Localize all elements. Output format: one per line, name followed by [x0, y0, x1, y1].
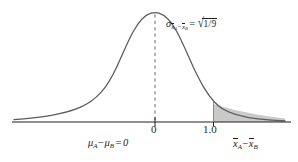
square-root-expression: √1/9: [197, 16, 217, 30]
statistics-figure: σxA−xB=√1/9 0 1.0 μA−μB=0 xA−xB: [0, 0, 298, 162]
radicand: 1/9: [202, 18, 217, 30]
axis-title-subscript-b: B: [254, 143, 258, 150]
radicand-denominator: 9: [211, 19, 216, 29]
mu-caption-value: 0: [123, 137, 128, 148]
sigma-formula-annotation: σxA−xB=√1/9: [166, 16, 217, 32]
radical-sign: √: [198, 16, 204, 30]
axis-title-minus: −: [242, 138, 249, 149]
x-axis-title: xA−xB: [233, 138, 258, 151]
x-tick-label-one: 1.0: [203, 124, 217, 135]
shaded-tail-region: [214, 104, 286, 122]
sigma-subscript: xA−xB: [171, 23, 188, 30]
mu-subscript-a: A: [93, 142, 97, 149]
normal-curve: [14, 13, 285, 121]
equals-sign: =: [188, 18, 197, 29]
population-mean-difference-caption: μA−μB=0: [88, 138, 128, 150]
mu-caption-equals: =: [114, 137, 123, 148]
x-tick-label-zero: 0: [151, 124, 157, 135]
